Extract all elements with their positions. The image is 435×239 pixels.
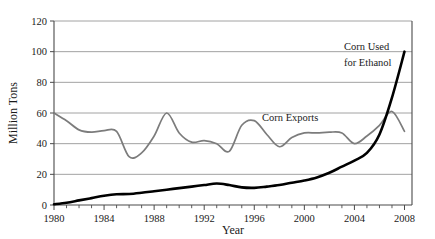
y-tick-label-20: 20: [37, 169, 48, 180]
y-tick-label-60: 60: [37, 108, 48, 119]
data-series: [54, 52, 404, 205]
y-tick-label-120: 120: [31, 16, 47, 27]
x-tick-label-2008: 2008: [394, 213, 415, 224]
y-axis-title: Million Tons: [6, 82, 20, 144]
series-label-corn-exports: Corn Exports: [262, 112, 318, 123]
y-tick-label-0: 0: [42, 200, 47, 211]
x-tick-label-2004: 2004: [344, 213, 366, 224]
series-path-corn-used-for-ethanol: [54, 52, 404, 205]
y-tick-label-80: 80: [37, 77, 48, 88]
x-tick-label-1988: 1988: [144, 213, 165, 224]
series-label-corn-ethanol-line2: for Ethanol: [344, 57, 392, 68]
y-tick-label-100: 100: [31, 46, 47, 57]
series-label-corn-ethanol-line1: Corn Used: [344, 41, 390, 52]
x-tick-label-1992: 1992: [194, 213, 215, 224]
x-tick-label-2000: 2000: [294, 213, 315, 224]
series-path-corn-exports: [54, 111, 404, 158]
x-tick-label-1984: 1984: [94, 213, 116, 224]
x-tick-label-1980: 1980: [44, 213, 65, 224]
chart-container: 020406080100120 198019841988199219962000…: [0, 0, 435, 239]
x-axis-title: Year: [222, 223, 244, 237]
x-tick-label-1996: 1996: [244, 213, 265, 224]
y-axis-tick-labels: 020406080100120: [31, 16, 47, 211]
line-chart: 020406080100120 198019841988199219962000…: [0, 0, 435, 239]
x-axis-ticks: [54, 205, 404, 210]
y-tick-label-40: 40: [37, 138, 48, 149]
